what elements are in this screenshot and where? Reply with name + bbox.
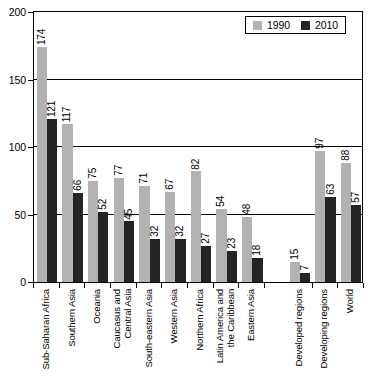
bar-2010 bbox=[98, 212, 108, 282]
x-axis-label: World bbox=[345, 289, 356, 313]
x-axis-label: Northern Africa bbox=[195, 289, 206, 351]
legend-swatch-2010-icon bbox=[301, 21, 310, 30]
bar-2010 bbox=[351, 205, 361, 282]
bar-value-label: 67 bbox=[165, 179, 175, 190]
bar-value-label: 32 bbox=[150, 226, 160, 237]
bar-value-label: 77 bbox=[114, 165, 124, 176]
bar-value-label: 48 bbox=[242, 204, 252, 215]
bar-1990 bbox=[191, 171, 201, 282]
bar-value-label: 117 bbox=[62, 107, 72, 122]
x-tick-mark bbox=[136, 283, 137, 288]
x-tick-mark bbox=[264, 283, 265, 288]
x-tick-mark bbox=[59, 283, 60, 288]
x-tick-mark bbox=[187, 283, 188, 288]
bar-2010 bbox=[73, 193, 83, 282]
bar-value-label: 32 bbox=[175, 226, 185, 237]
bar-value-label: 54 bbox=[216, 196, 226, 207]
bar-1990 bbox=[341, 163, 351, 282]
bar-2010 bbox=[201, 246, 211, 282]
x-axis-labels: Sub-Saharan AfricaSouthern AsiaOceaniaCa… bbox=[33, 289, 363, 385]
x-tick-mark bbox=[84, 283, 85, 288]
plot-area: 1741211176675527745713267328227542348181… bbox=[33, 11, 363, 283]
bar-2010 bbox=[300, 273, 310, 282]
x-tick-mark bbox=[337, 283, 338, 288]
legend-label-2010: 2010 bbox=[315, 20, 338, 30]
x-tick-mark bbox=[363, 283, 364, 288]
x-axis-label: Sub-Saharan Africa bbox=[41, 289, 52, 370]
x-axis-label: Developed regions bbox=[294, 289, 305, 366]
bar-value-label: 52 bbox=[98, 199, 108, 210]
y-tick-label: 0 bbox=[20, 277, 26, 287]
bar-1990 bbox=[62, 124, 72, 282]
bar-value-label: 15 bbox=[290, 249, 300, 260]
bar-value-label: 71 bbox=[139, 173, 149, 184]
x-tick-mark bbox=[213, 283, 214, 288]
x-tick-mark bbox=[238, 283, 239, 288]
bar-value-label: 75 bbox=[88, 168, 98, 179]
x-axis-label: South-eastern Asia bbox=[144, 289, 155, 367]
bar-value-label: 18 bbox=[252, 245, 262, 256]
bar-2010 bbox=[175, 239, 185, 282]
y-axis: 050100150200 bbox=[0, 0, 33, 290]
bar-1990 bbox=[114, 178, 124, 282]
legend-swatch-1990-icon bbox=[253, 21, 262, 30]
bar-value-label: 7 bbox=[300, 265, 310, 270]
x-axis-label: Oceania bbox=[92, 289, 103, 324]
y-tick-label: 200 bbox=[9, 7, 26, 17]
legend-item-1990: 1990 bbox=[253, 20, 290, 30]
bar-1990 bbox=[315, 151, 325, 282]
bar-value-label: 174 bbox=[37, 29, 47, 45]
bar-2010 bbox=[252, 258, 262, 282]
x-axis-label: Western Asia bbox=[169, 289, 180, 344]
bar-1990 bbox=[139, 186, 149, 282]
bar-value-label: 88 bbox=[341, 150, 351, 161]
x-tick-mark bbox=[110, 283, 111, 288]
bar-value-label: 63 bbox=[326, 184, 336, 195]
bar-value-label: 45 bbox=[124, 209, 134, 220]
x-tick-mark bbox=[312, 283, 313, 288]
legend-label-1990: 1990 bbox=[267, 20, 290, 30]
bar-value-label: 97 bbox=[315, 138, 325, 149]
bar-value-label: 27 bbox=[201, 233, 211, 244]
bar-2010 bbox=[227, 251, 237, 282]
x-axis-label: Southern Asia bbox=[67, 289, 78, 347]
bar-1990 bbox=[37, 47, 47, 282]
y-tick-label: 50 bbox=[15, 210, 26, 220]
bar-value-label: 57 bbox=[351, 192, 361, 203]
bar-chart: 050100150200 174121117667552774571326732… bbox=[0, 0, 369, 385]
x-axis-label: Latin America and the Caribbean bbox=[215, 289, 236, 363]
bar-2010 bbox=[325, 197, 335, 282]
bar-value-label: 82 bbox=[191, 159, 201, 170]
legend-item-2010: 2010 bbox=[301, 20, 338, 30]
x-axis-label: Caucasus and Central Asia bbox=[112, 289, 133, 349]
x-axis-label: Developing regions bbox=[319, 289, 330, 368]
bar-value-label: 66 bbox=[73, 180, 83, 191]
y-tick-label: 100 bbox=[9, 142, 26, 152]
bar-2010 bbox=[47, 119, 57, 282]
bar-2010 bbox=[150, 239, 160, 282]
x-axis-label: Eastern Asia bbox=[246, 289, 257, 341]
bar-1990 bbox=[165, 192, 175, 282]
bar-value-label: 121 bbox=[47, 101, 57, 117]
bar-2010 bbox=[124, 221, 134, 282]
bars-layer: 1741211176675527745713267328227542348181… bbox=[34, 12, 362, 282]
x-tick-mark bbox=[33, 283, 34, 288]
y-tick-label: 150 bbox=[9, 75, 26, 85]
bar-1990 bbox=[88, 181, 98, 282]
bar-value-label: 23 bbox=[227, 238, 237, 249]
x-tick-mark bbox=[161, 283, 162, 288]
chart-legend: 1990 2010 bbox=[245, 16, 346, 34]
